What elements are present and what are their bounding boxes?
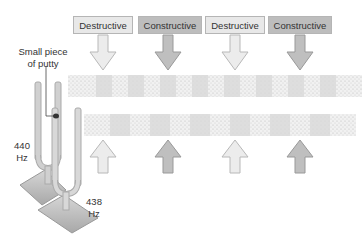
label-destructive-2: Destructive: [205, 16, 265, 34]
up-arrow-icon: [155, 140, 181, 173]
up-arrow-icon: [222, 140, 248, 173]
wave-band-top: [68, 75, 362, 97]
fork2-frequency: 438 Hz: [84, 196, 104, 220]
down-arrow-icon: [155, 35, 181, 70]
wave-band-bottom: [84, 114, 356, 136]
down-arrow-icon: [222, 35, 248, 70]
interference-diagram: [0, 0, 362, 244]
fork1-freq-value: 440: [12, 140, 32, 152]
putty-label: Small piece of putty: [18, 46, 68, 70]
up-arrow-icon: [90, 140, 116, 173]
fork2-freq-unit: Hz: [84, 208, 104, 220]
label-constructive-2: Constructive: [268, 16, 332, 34]
down-arrow-icon: [90, 35, 116, 70]
fork2-freq-value: 438: [84, 196, 104, 208]
label-destructive-1: Destructive: [73, 16, 133, 34]
down-arrow-icon: [287, 35, 313, 70]
up-arrow-icon: [287, 140, 313, 173]
fork1-freq-unit: Hz: [12, 152, 32, 164]
fork1-frequency: 440 Hz: [12, 140, 32, 164]
label-constructive-1: Constructive: [138, 16, 202, 34]
